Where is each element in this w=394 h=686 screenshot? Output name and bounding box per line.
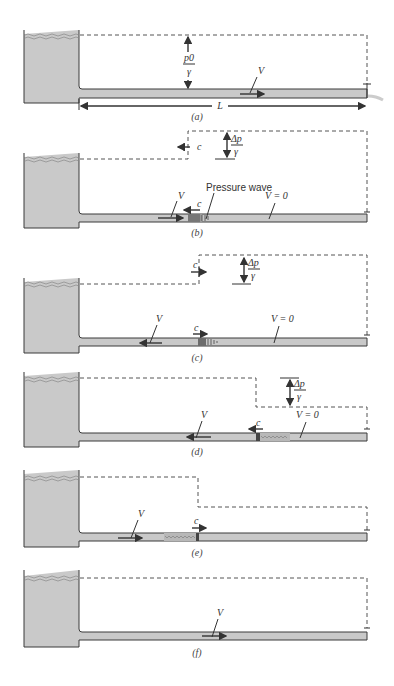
caption-d: (d) (191, 446, 203, 458)
v-zero-label: V = 0 (271, 313, 294, 324)
wave-speed-pipe-label: c (197, 198, 202, 209)
wave-speed-label: c (193, 259, 198, 270)
hydraulic-grade-line (80, 378, 367, 429)
pressure-wave-label: Pressure wave (206, 182, 273, 193)
panel-f: V (f) (24, 570, 370, 659)
velocity-label: V (178, 190, 186, 201)
panel-b: c Δp γ V c Pressure wave V = 0 (b) (24, 131, 370, 239)
caption-b: (b) (191, 227, 203, 239)
wave-front (196, 533, 199, 541)
dp-label-num: Δp (230, 133, 242, 144)
caption-c: (c) (191, 352, 203, 364)
hydraulic-grade-line (80, 578, 367, 628)
wave-speed-label: c (197, 141, 202, 152)
reservoir-tank (24, 278, 367, 353)
wave-speed-pipe-label: c (194, 322, 199, 333)
velocity-label: V (217, 607, 225, 618)
panel-c: c Δp γ V c V = 0 (c) (24, 255, 370, 364)
hydraulic-grade-line (80, 35, 367, 84)
outflow-jet (368, 96, 383, 100)
velocity-label: V (138, 508, 146, 519)
v-zero-label: V = 0 (296, 409, 319, 420)
dp-label-den: γ (251, 270, 256, 281)
caption-f: (f) (192, 647, 202, 659)
hydraulic-grade-line (80, 131, 367, 212)
head-label-num: p0 (183, 52, 194, 63)
caption-a: (a) (191, 111, 203, 123)
hydraulic-grade-line (80, 255, 367, 335)
wave-speed-pipe-label: c (256, 417, 261, 428)
panel-d: Δp γ V c V = 0 (d) (24, 372, 370, 458)
water-hammer-diagram: p0 γ V L (a) c Δp γ V c (0, 0, 394, 686)
expanded-region (260, 433, 290, 441)
dp-label-num: Δp (247, 257, 259, 268)
panel-e: V c (e) (24, 470, 370, 559)
hydraulic-grade-line (80, 477, 367, 530)
dp-label-num: Δp (293, 378, 305, 389)
velocity-label: V (258, 65, 266, 76)
reservoir-tank (24, 570, 367, 647)
dp-label-den: γ (297, 391, 302, 402)
panel-a: p0 γ V L (a) (24, 30, 383, 123)
wave-front (256, 433, 260, 441)
length-label: L (216, 100, 223, 111)
velocity-label: V (201, 409, 209, 420)
wave-speed-pipe-label: c (194, 515, 199, 526)
dp-label-den: γ (234, 146, 239, 157)
caption-e: (e) (191, 547, 203, 559)
v-zero-label: V = 0 (265, 190, 288, 201)
velocity-label: V (156, 313, 164, 324)
